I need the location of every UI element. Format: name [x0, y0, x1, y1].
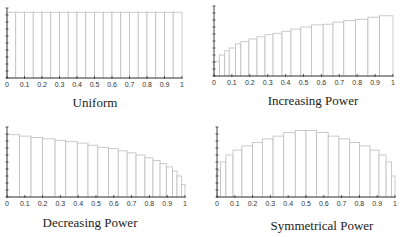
bar — [241, 42, 249, 76]
bar — [156, 12, 165, 78]
bar — [60, 12, 69, 78]
bar — [291, 29, 301, 76]
x-tick-label: 0.8 — [352, 79, 362, 86]
bar — [31, 138, 43, 198]
bar — [386, 162, 391, 197]
bar — [43, 139, 55, 197]
chart-title-symmetrical-power: Symmetrical Power — [271, 218, 375, 233]
bar — [282, 31, 291, 76]
x-tick-label: 0.2 — [248, 200, 258, 207]
bar — [98, 147, 109, 197]
chart-title-increasing-power: Increasing Power — [268, 93, 359, 108]
bar — [165, 12, 174, 78]
bar — [7, 135, 19, 197]
x-tick-label: 0.5 — [301, 200, 311, 207]
x-tick-label: 0.1 — [230, 200, 240, 207]
bar — [235, 44, 240, 76]
bar — [77, 12, 86, 78]
bar — [265, 35, 273, 76]
bar — [242, 146, 253, 197]
bar — [217, 170, 221, 197]
bar — [380, 16, 393, 76]
bar — [295, 131, 306, 198]
bar — [42, 12, 51, 78]
bar — [233, 150, 242, 197]
bar — [249, 39, 257, 76]
bar — [66, 142, 78, 197]
bar — [166, 167, 172, 197]
x-tick-label: 0 — [215, 200, 219, 207]
x-tick-label: 0.6 — [319, 200, 329, 207]
bar — [370, 150, 379, 197]
bar — [328, 136, 339, 197]
bar — [391, 176, 395, 197]
bar — [350, 142, 360, 197]
x-tick-label: 0.4 — [73, 200, 83, 207]
bar — [19, 136, 31, 197]
x-tick-label: 0.5 — [90, 81, 100, 88]
panel-increasing-power: 00.10.20.30.40.50.60.70.80.91 — [212, 6, 395, 86]
bar — [253, 142, 263, 197]
x-tick-label: 0.6 — [107, 81, 117, 88]
bar — [339, 139, 350, 197]
bar — [136, 155, 145, 197]
x-tick-label: 0.4 — [283, 200, 293, 207]
bar — [306, 131, 317, 198]
x-tick-label: 1 — [391, 79, 395, 86]
x-tick-label: 0.4 — [281, 79, 291, 86]
bar — [103, 12, 112, 78]
x-tick-label: 0.3 — [55, 81, 65, 88]
bar — [173, 12, 182, 78]
bar — [219, 55, 224, 76]
bar — [118, 151, 127, 197]
bar — [68, 12, 77, 78]
bar — [173, 171, 177, 197]
bar — [138, 12, 147, 78]
bar — [317, 133, 329, 197]
bar — [145, 158, 153, 197]
x-tick-label: 0.8 — [355, 200, 365, 207]
bar — [181, 184, 185, 197]
x-tick-label: 1 — [180, 81, 184, 88]
x-tick-label: 0.9 — [160, 81, 170, 88]
x-tick-label: 0 — [5, 81, 9, 88]
x-tick-label: 0.6 — [109, 200, 119, 207]
bar — [121, 12, 130, 78]
x-tick-label: 0.3 — [263, 79, 273, 86]
x-tick-label: 0.2 — [245, 79, 255, 86]
x-tick-label: 0.7 — [337, 200, 347, 207]
bar — [323, 24, 333, 76]
x-tick-label: 0.3 — [266, 200, 276, 207]
x-tick-label: 0 — [5, 200, 9, 207]
bar — [51, 12, 60, 78]
bar — [379, 155, 386, 197]
x-tick-label: 0.7 — [334, 79, 344, 86]
panel-uniform: 00.10.20.30.40.50.60.70.80.91 — [5, 8, 184, 88]
x-tick-label: 0.9 — [370, 79, 380, 86]
bar — [153, 161, 160, 197]
bar — [257, 37, 265, 76]
x-tick-label: 0.8 — [145, 200, 155, 207]
x-tick-label: 0.8 — [142, 81, 152, 88]
bar — [177, 176, 181, 197]
bar — [368, 17, 380, 76]
bar — [229, 48, 235, 76]
bar — [112, 12, 121, 78]
bar — [160, 163, 166, 197]
bar — [273, 136, 284, 197]
x-tick-label: 0.9 — [372, 200, 382, 207]
bar — [262, 139, 273, 197]
bar — [225, 51, 229, 76]
bar — [147, 12, 156, 78]
bar — [77, 143, 88, 197]
bar — [108, 149, 118, 197]
x-tick-label: 0.6 — [317, 79, 327, 86]
bar — [333, 22, 344, 76]
bar — [355, 19, 368, 76]
bar — [95, 12, 104, 78]
bar — [130, 12, 139, 78]
bar — [301, 27, 312, 76]
bar — [88, 145, 98, 197]
x-tick-label: 0.4 — [72, 81, 82, 88]
x-tick-label: 0.5 — [299, 79, 309, 86]
